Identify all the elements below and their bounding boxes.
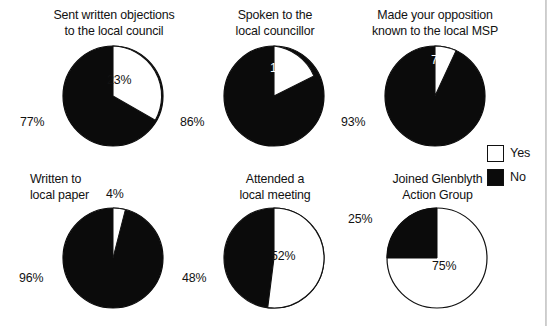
pie-title-line-1: Attended a: [200, 172, 350, 188]
pie-title-line-2: known to the local MSP: [340, 24, 530, 40]
legend-item-yes: Yes: [487, 141, 549, 165]
legend-label-yes: Yes: [510, 146, 530, 160]
pie-title-line-2: local councillor: [200, 24, 350, 40]
slice-no: [387, 208, 437, 258]
pie-graphic: [386, 207, 488, 309]
pie-value-yes: 7%: [431, 54, 449, 67]
pie-value-no: 25%: [348, 213, 372, 226]
pie-title: Spoken to the local councillor: [200, 8, 350, 39]
pie-value-no: 48%: [182, 272, 206, 285]
legend-label-no: No: [510, 170, 526, 184]
legend-swatch-yes-icon: [487, 145, 504, 162]
legend-swatch-no-icon: [487, 169, 504, 186]
pie-title-line-2: to the local council: [19, 24, 209, 40]
pie-value-no: 86%: [180, 116, 204, 129]
pie-value-yes: 14%: [270, 62, 294, 75]
pie-graphic: [62, 45, 164, 147]
pie-title: Made your opposition known to the local …: [340, 8, 530, 39]
pie-value-no: 77%: [20, 116, 44, 129]
pie-title-line-1: Made your opposition: [340, 8, 530, 24]
pie-value-no: 93%: [341, 116, 365, 129]
chart-legend: Yes No: [487, 141, 549, 189]
pie-title-line-1: Spoken to the: [200, 8, 350, 24]
pie-value-yes: 4%: [106, 188, 124, 201]
pie-value-yes: 52%: [271, 250, 295, 263]
pie-value-yes: 75%: [432, 260, 456, 273]
pie-title: Sent written objections to the local cou…: [19, 8, 209, 39]
pie-value-yes: 23%: [107, 74, 131, 87]
pie-title-line-1: Written to: [30, 172, 190, 188]
pie-title-line-2: Action Group: [355, 188, 520, 204]
legend-item-no: No: [487, 165, 549, 189]
pie-title: Attended a local meeting: [200, 172, 350, 203]
pie-value-no: 96%: [19, 272, 43, 285]
pie-title-line-1: Sent written objections: [19, 8, 209, 24]
pie-graphic: [62, 207, 164, 309]
pie-title-line-2: local meeting: [200, 188, 350, 204]
